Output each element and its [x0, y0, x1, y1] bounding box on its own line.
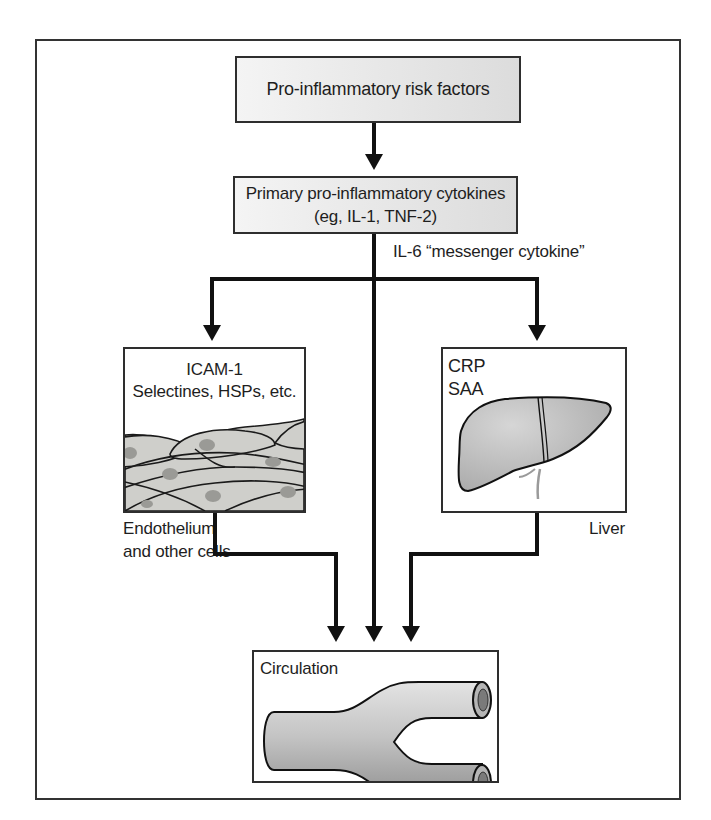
arrow-endothelium-to-circulation: [215, 513, 336, 630]
arrow-liver-to-circulation: [411, 513, 537, 630]
connector-arrows: [0, 0, 711, 820]
